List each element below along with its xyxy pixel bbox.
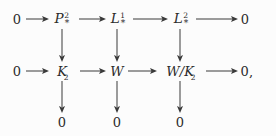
node-bottom-zero-col2: 0 [113,116,121,129]
arrow-col2-r2-to-r3 [114,81,120,113]
arrow-col3-r2-to-r3 [177,81,183,113]
subscript-K: 2 [64,72,69,81]
subscript-W-over-K: 2 [191,72,196,81]
node-top-right-zero: 0 [241,13,249,26]
node-top-left-zero: 0 [13,13,21,26]
arrow-r2-k2-to-w [80,68,106,74]
arrow-col1-r1-to-r2 [59,29,65,62]
commutative-diagram: 0 P2* L1* L2* 0 0 K2 W W/K2 0, 0 0 0 [0,0,276,136]
node-bottom-zero-col3: 0 [176,116,184,129]
subscript-P: * [65,19,70,29]
arrow-col3-r1-to-r2 [177,29,183,62]
arrow-col1-r2-to-r3 [59,81,65,113]
symbol-script-L-2: L [174,10,183,26]
arrow-r1-l1-to-l2 [133,16,168,22]
arrow-r1-p-to-l1 [79,16,106,22]
node-mid-right-zero-comma: 0, [241,65,254,78]
subscript-L-2: * [184,19,189,29]
node-bottom-zero-col1: 0 [58,116,66,129]
symbol-script-L-1: L [111,10,120,26]
node-K2: K2 [57,65,68,78]
symbol-script-P: P [55,10,64,26]
arrow-r1-l2-to-zero [196,16,238,22]
node-L-two-star: L2* [174,12,189,26]
subscript-L-1: * [121,19,126,29]
node-W-mod-K2: W/K2 [166,65,196,78]
node-W: W [110,65,124,78]
arrow-layer [0,0,276,136]
symbol-W-over-K: W/K [166,64,194,79]
node-P-squared-star: P2* [55,12,70,26]
arrow-r2-w-to-wk2 [128,68,157,74]
node-mid-left-zero: 0 [13,65,21,78]
arrow-r2-zero-to-k2 [26,68,49,74]
arrow-r2-wk2-to-zero [206,68,238,74]
arrow-col2-r1-to-r2 [114,29,120,62]
node-L-one-star: L1* [111,12,126,26]
arrow-r1-zero-to-p [26,16,49,22]
